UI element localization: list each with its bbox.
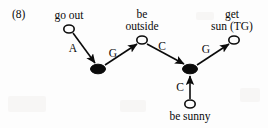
node-label-be_outside: beoutside — [125, 8, 158, 32]
node-be_outside — [137, 36, 147, 44]
edge-label-e4: G — [202, 43, 210, 55]
nodes-layer — [64, 25, 239, 108]
node-label-be_sunny: be sunny — [169, 110, 210, 122]
edge-label-e1: A — [69, 42, 77, 54]
node-label-line: get — [211, 8, 253, 20]
node-label-get_sun: getsun (TG) — [211, 8, 253, 32]
node-event2 — [183, 64, 198, 74]
edge-label-e2: G — [109, 47, 117, 59]
node-label-line: be — [125, 8, 158, 20]
edge-label-e3: C — [158, 40, 166, 52]
node-label-line: go out — [54, 9, 83, 21]
node-get_sun — [229, 36, 239, 44]
node-label-line: outside — [125, 20, 158, 32]
node-be_sunny — [185, 100, 195, 108]
node-label-go_out: go out — [54, 9, 83, 21]
edge-label-e5: C — [176, 81, 184, 93]
node-label-line: be sunny — [169, 110, 210, 122]
figure-container: (8) go outbeoutsidegetsun (TG)be sunny A… — [0, 0, 268, 128]
node-label-line: sun (TG) — [211, 20, 253, 32]
node-event1 — [91, 64, 106, 74]
node-go_out — [64, 25, 74, 33]
